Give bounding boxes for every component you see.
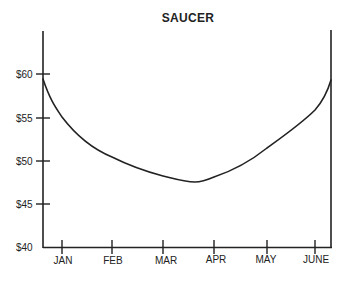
x-tick-label-feb: FEB — [103, 255, 123, 266]
y-tick-label-60: $60 — [16, 69, 33, 80]
y-tick-label-55: $55 — [16, 113, 33, 124]
x-tick-label-mar: MAR — [155, 255, 177, 266]
x-tick-label-apr: APR — [206, 254, 227, 265]
x-tick-label-jan: JAN — [54, 255, 73, 266]
y-tick-label-45: $45 — [16, 199, 33, 210]
x-tick-label-june: JUNE — [303, 254, 329, 265]
saucer-chart: $60 $55 $50 $45 $40 JAN FEB MAR APR MAY … — [0, 0, 349, 281]
price-curve — [43, 79, 331, 182]
y-tick-label-50: $50 — [16, 156, 33, 167]
x-tick-label-may: MAY — [256, 254, 277, 265]
y-tick-label-40: $40 — [16, 242, 33, 253]
